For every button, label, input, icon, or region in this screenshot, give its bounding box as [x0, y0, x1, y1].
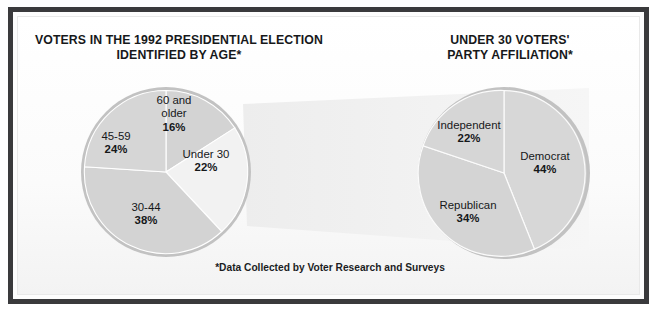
slice-value: 16%	[142, 121, 206, 134]
slice-name: Under 30	[167, 148, 245, 161]
page-title-right: UNDER 30 VOTERS' PARTY AFFILIATION*	[396, 33, 624, 63]
slice-label-under-30: Under 30 22%	[167, 148, 245, 175]
slice-value: 24%	[84, 143, 148, 156]
slice-name: 45-59	[84, 130, 148, 143]
slice-label-democrat: Democrat 44%	[507, 150, 583, 177]
slice-name: Democrat	[507, 150, 583, 163]
slice-name: 60 and older	[142, 94, 206, 121]
slice-value: 22%	[425, 132, 513, 145]
slice-value: 44%	[507, 163, 583, 176]
slice-name: Republican	[428, 199, 508, 212]
slice-value: 22%	[167, 161, 245, 174]
footnote-data-source: *Data Collected by Voter Research and Su…	[150, 262, 510, 273]
figure-stage: VOTERS IN THE 1992 PRESIDENTIAL ELECTION…	[0, 0, 657, 312]
slice-label-independent: Independent 22%	[425, 119, 513, 146]
page-title-left: VOTERS IN THE 1992 PRESIDENTIAL ELECTION…	[24, 33, 334, 63]
slice-value: 34%	[428, 212, 508, 225]
slice-label-republican: Republican 34%	[428, 199, 508, 226]
slice-value: 38%	[113, 214, 179, 227]
figure-screenshot: VOTERS IN THE 1992 PRESIDENTIAL ELECTION…	[0, 0, 657, 312]
slice-label-60-and-older: 60 and older 16%	[142, 94, 206, 134]
slice-name: Independent	[425, 119, 513, 132]
slice-label-30-44: 30-44 38%	[113, 201, 179, 228]
slice-name: 30-44	[113, 201, 179, 214]
slice-label-45-59: 45-59 24%	[84, 130, 148, 157]
